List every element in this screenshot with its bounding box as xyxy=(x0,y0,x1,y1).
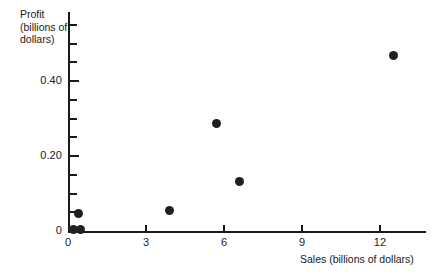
data-points-layer xyxy=(0,0,434,276)
data-point xyxy=(212,119,221,128)
data-point xyxy=(74,209,83,218)
x-axis-title: Sales (billions of dollars) xyxy=(300,253,414,265)
data-point xyxy=(76,225,85,234)
scatter-plot-figure: Profit (billions of dollars) 00.200.40 0… xyxy=(0,0,434,276)
data-point xyxy=(165,206,174,215)
data-point xyxy=(235,177,244,186)
data-point xyxy=(389,51,398,60)
